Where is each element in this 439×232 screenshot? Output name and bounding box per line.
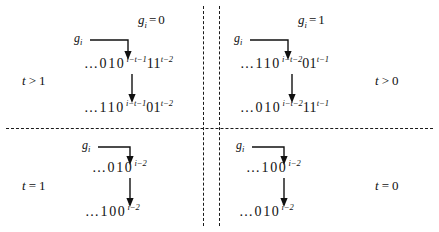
row-condition-t-gt-0: t>0 bbox=[375, 73, 398, 89]
bit-string-top-left-to: …110i−t−101t−2 bbox=[84, 100, 173, 116]
bit-string-bottom-left-from: …010i−2 bbox=[92, 160, 147, 176]
bit-string-bottom-right-to: …010i−2 bbox=[239, 204, 294, 220]
bit-string-top-right-to: …010i−t−211t−1 bbox=[240, 100, 329, 116]
row-condition-t-eq-1: t=1 bbox=[22, 178, 45, 194]
row-condition-t-eq-0: t=0 bbox=[375, 178, 398, 194]
pointer-label-gi-top-left: gi bbox=[74, 31, 82, 46]
pointer-label-gi-bottom-left: gi bbox=[82, 138, 90, 153]
column-header-gi-0: gi=0 bbox=[138, 12, 165, 28]
bit-string-transition-figure: gi=0 gi=1 t>1 t>0 t=1 t=0 gi …010i−t−111… bbox=[0, 0, 439, 232]
row-condition-t-gt-1: t>1 bbox=[22, 73, 45, 89]
vertical-divider-left bbox=[203, 6, 204, 226]
bit-string-bottom-left-to: …100i−2 bbox=[85, 204, 140, 220]
horizontal-divider bbox=[6, 128, 433, 129]
bit-string-top-left-from: …010i−t−111t−2 bbox=[84, 56, 173, 72]
column-header-gi-1: gi=1 bbox=[298, 12, 325, 28]
pointer-label-gi-bottom-right: gi bbox=[236, 138, 244, 153]
vertical-divider-right bbox=[219, 6, 220, 226]
bit-string-top-right-from: …110i−t−201t−1 bbox=[240, 56, 329, 72]
bit-string-bottom-right-from: …100i−2 bbox=[246, 160, 301, 176]
pointer-label-gi-top-right: gi bbox=[234, 31, 242, 46]
